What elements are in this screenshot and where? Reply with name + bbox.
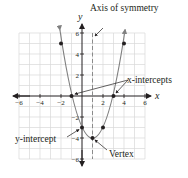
y-tick-label: 4 (76, 51, 80, 59)
x-tick-label: −4 (36, 99, 44, 107)
y-tick-label: −4 (72, 135, 80, 143)
x-intercept-point-right (112, 94, 116, 98)
x-tick-label: 2 (101, 99, 105, 107)
y-intercept-label: y-intercept (15, 134, 57, 144)
x-tick-label: 6 (143, 99, 147, 107)
x-tick-label: −2 (57, 99, 65, 107)
y-tick-label: 6 (76, 30, 80, 38)
y-tick-label: −6 (72, 156, 80, 164)
axis-of-symmetry-pointer (95, 28, 103, 36)
y-axis-label: y (77, 11, 83, 22)
x-intercepts-label: x-intercepts (127, 75, 172, 85)
vertex-point (91, 136, 95, 140)
x-intercept-pointer-right (116, 80, 128, 93)
point-4-5 (122, 42, 126, 46)
x-tick-label: −6 (15, 99, 23, 107)
x-axis-label: x (154, 90, 160, 101)
x-tick-label: 4 (122, 99, 126, 107)
point-neg2-5 (59, 42, 63, 46)
x-intercept-point-left (70, 94, 74, 98)
vertex-label: Vertex (109, 149, 134, 159)
point-2-neg3 (101, 126, 105, 130)
parabola-graph: −6 −4 −2 2 4 6 6 4 2 −2 −4 −6 x y Axis o… (0, 0, 188, 178)
x-intercept-pointer-left (75, 80, 128, 94)
y-intercept-point (80, 126, 84, 130)
axis-of-symmetry-label: Axis of symmetry (90, 3, 159, 13)
y-tick-label: 2 (76, 72, 80, 80)
